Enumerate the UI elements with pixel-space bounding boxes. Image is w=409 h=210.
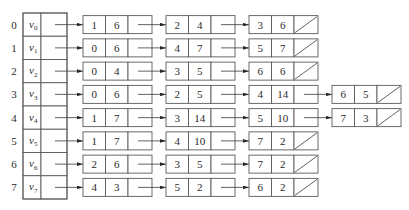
- adjvex-value: 1: [92, 19, 98, 31]
- weight-value: 14: [194, 112, 206, 124]
- vertex-index: 7: [11, 181, 17, 193]
- weight-value: 6: [114, 19, 120, 31]
- adjvex-value: 7: [258, 158, 264, 170]
- edge-node: 36: [249, 16, 318, 34]
- edge-node: 52: [166, 178, 249, 196]
- edge-node: 26: [83, 155, 166, 173]
- vertex-row: v5: [23, 129, 83, 152]
- vertex-index: 4: [11, 112, 17, 124]
- adjvex-value: 4: [258, 88, 264, 100]
- edge-node: 35: [166, 62, 249, 80]
- edge-node: 04: [83, 62, 166, 80]
- edge-node: 47: [166, 39, 249, 57]
- adjvex-value: 3: [175, 65, 181, 77]
- edge-node: 65: [332, 85, 401, 103]
- weight-value: 7: [197, 42, 203, 54]
- adjvex-value: 3: [258, 19, 264, 31]
- edge-node: 57: [249, 39, 318, 57]
- edge-node: 25: [166, 85, 249, 103]
- adjvex-value: 6: [341, 88, 347, 100]
- edge-node: 24: [166, 16, 249, 34]
- weight-value: 14: [277, 88, 289, 100]
- adjvex-value: 2: [175, 88, 181, 100]
- vertex-row: v2: [23, 60, 83, 83]
- edge-node: 314: [166, 109, 249, 127]
- edge-node: 35: [166, 155, 249, 173]
- edge-node: 72: [249, 155, 318, 173]
- weight-value: 3: [363, 112, 369, 124]
- vertex-table: 0v01v12v23v34v45v56v67v7: [11, 13, 83, 199]
- edge-node: 410: [166, 132, 249, 150]
- weight-value: 6: [280, 65, 286, 77]
- weight-value: 10: [194, 135, 206, 147]
- vertex-row: v0: [23, 13, 83, 36]
- weight-value: 3: [114, 181, 120, 193]
- weight-value: 2: [280, 135, 286, 147]
- edge-node: 43: [83, 178, 166, 196]
- vertex-index: 0: [11, 19, 17, 31]
- edge-node: 62: [249, 178, 318, 196]
- weight-value: 2: [280, 158, 286, 170]
- edge-node: 66: [249, 62, 318, 80]
- vertex-row: v4: [23, 106, 83, 129]
- weight-value: 2: [280, 181, 286, 193]
- vertex-index: 1: [11, 42, 17, 54]
- weight-value: 5: [197, 158, 203, 170]
- edge-node: 17: [83, 109, 166, 127]
- edge-node: 06: [83, 85, 166, 103]
- adjvex-value: 0: [92, 42, 98, 54]
- adjvex-value: 6: [258, 181, 264, 193]
- adjvex-value: 1: [92, 135, 98, 147]
- weight-value: 5: [197, 65, 203, 77]
- vertex-row: v3: [23, 83, 83, 106]
- weight-value: 2: [197, 181, 203, 193]
- vertex-row: v7: [23, 176, 83, 199]
- adjvex-value: 6: [258, 65, 264, 77]
- weight-value: 5: [363, 88, 369, 100]
- weight-value: 7: [280, 42, 286, 54]
- weight-value: 5: [197, 88, 203, 100]
- weight-value: 6: [280, 19, 286, 31]
- vertex-index: 6: [11, 158, 17, 170]
- edge-node: 06: [83, 39, 166, 57]
- edge-node: 510: [249, 109, 332, 127]
- vertex-index: 3: [11, 88, 17, 100]
- adjvex-value: 4: [92, 181, 98, 193]
- weight-value: 4: [114, 65, 120, 77]
- vertex-index: 5: [11, 135, 17, 147]
- adjvex-value: 0: [92, 65, 98, 77]
- weight-value: 7: [114, 135, 120, 147]
- adjvex-value: 1: [92, 112, 98, 124]
- weight-value: 6: [114, 158, 120, 170]
- weight-value: 7: [114, 112, 120, 124]
- adjvex-value: 2: [175, 19, 181, 31]
- adjvex-value: 2: [92, 158, 98, 170]
- adjacency-list-diagram: 0v01v12v23v34v45v56v67v7 162436064757043…: [0, 0, 409, 210]
- edge-lists: 1624360647570435660625414651731451073174…: [83, 16, 401, 197]
- adjvex-value: 7: [341, 112, 347, 124]
- vertex-row: v1: [23, 36, 83, 59]
- edge-node: 16: [83, 16, 166, 34]
- adjvex-value: 7: [258, 135, 264, 147]
- adjvex-value: 4: [175, 42, 181, 54]
- edge-node: 72: [249, 132, 318, 150]
- vertex-row: v6: [23, 153, 83, 176]
- weight-value: 4: [197, 19, 203, 31]
- weight-value: 6: [114, 88, 120, 100]
- weight-value: 10: [277, 112, 289, 124]
- adjvex-value: 5: [175, 181, 181, 193]
- edge-node: 17: [83, 132, 166, 150]
- adjvex-value: 0: [92, 88, 98, 100]
- adjvex-value: 4: [175, 135, 181, 147]
- vertex-index: 2: [11, 65, 17, 77]
- adjvex-value: 5: [258, 42, 264, 54]
- adjvex-value: 5: [258, 112, 264, 124]
- adjvex-value: 3: [175, 158, 181, 170]
- edge-node: 414: [249, 85, 332, 103]
- adjvex-value: 3: [175, 112, 181, 124]
- weight-value: 6: [114, 42, 120, 54]
- edge-node: 73: [332, 109, 401, 127]
